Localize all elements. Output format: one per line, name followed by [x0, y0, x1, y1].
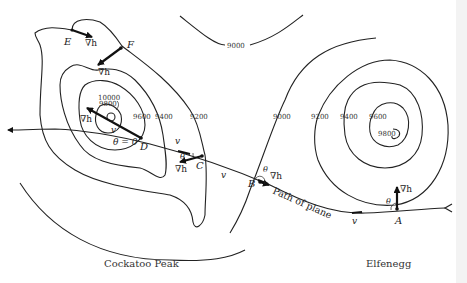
elev-9200-right: 9200 — [311, 113, 329, 121]
point-label-D: D — [139, 141, 148, 152]
contour-9400-left — [60, 65, 166, 178]
point-E-dot — [70, 28, 73, 31]
point-label-B: B — [247, 178, 255, 189]
elev-9200-left: 9200 — [190, 113, 208, 121]
gradient-vector-E — [72, 30, 92, 37]
elev-9400-right: 9400 — [340, 113, 358, 121]
elev-9600-left: 9600 — [133, 113, 151, 121]
elev-9600-right: 9600 — [369, 113, 387, 121]
velocity-label-B: v — [221, 170, 226, 180]
point-label-E: E — [63, 36, 72, 47]
velocity-arrow-A — [352, 212, 362, 213]
elev-9000-mid: 9000 — [273, 113, 291, 121]
elev-9000-top: 9000 — [227, 42, 245, 50]
point-D-dot — [139, 136, 143, 140]
point-label-A: A — [394, 215, 402, 226]
point-A-dot — [395, 207, 399, 211]
gradient-label-E: ∇h — [85, 38, 97, 48]
theta-label-B: θ — [263, 165, 268, 174]
velocity-label-D: v — [111, 125, 116, 135]
contour-9600-right — [370, 103, 409, 147]
velocity-label-A: v — [352, 216, 357, 226]
contour-map-diagram: A B C D E F ∇h ∇h ∇h ∇h ∇h ∇h v v v v θ … — [0, 0, 467, 283]
point-F-dot — [119, 46, 123, 50]
point-label-F: F — [126, 39, 135, 50]
gradient-label-D: ∇h — [80, 114, 92, 124]
place-label-elfenegg: Elfenegg — [366, 258, 412, 269]
gradient-label-B: ∇h — [270, 171, 282, 181]
theta-arc-C — [193, 153, 194, 158]
point-C-dot — [200, 154, 204, 158]
point-B-dot — [258, 180, 262, 184]
point-label-C: C — [196, 160, 204, 171]
theta-label-A: θ — [386, 197, 391, 206]
contour-9400-right — [344, 82, 422, 168]
flight-path-tail — [445, 204, 452, 212]
contour-9000-top — [180, 15, 303, 45]
path-of-plane-label: Path of plane — [271, 185, 334, 221]
elev-9800-left: 9800 — [99, 100, 117, 108]
gradient-label-F: ∇h — [98, 67, 110, 77]
theta-zero-label-D: θ = 0 — [113, 137, 138, 147]
contour-outer-bottom — [20, 183, 245, 261]
elev-9400-left: 9400 — [155, 113, 173, 121]
place-label-cockatoo-peak: Cockatoo Peak — [104, 258, 180, 269]
elev-9800-right: 9800 — [378, 130, 396, 138]
velocity-label-C: v — [175, 136, 180, 146]
flight-path — [8, 129, 445, 213]
gradient-vector-F — [98, 48, 121, 65]
gradient-label-A: ∇h — [400, 184, 412, 194]
theta-label-C: θ — [180, 152, 185, 161]
gradient-label-C: ∇h — [175, 164, 187, 174]
